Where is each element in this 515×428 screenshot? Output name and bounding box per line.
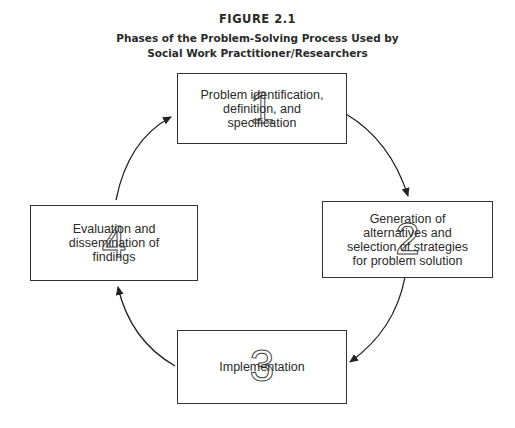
phase-text-2: Generation of alternatives and selection… [347, 212, 468, 268]
phase-1-line-3: specification [201, 116, 324, 130]
phase-1-line-2: definition, and [201, 102, 324, 116]
phase-text-3: Implementation [219, 360, 304, 374]
arrow-phase4-to-phase1 [116, 117, 171, 200]
phase-box-1: 1 Problem identification, definition, an… [177, 73, 347, 144]
phase-4-line-2: dissemination of [69, 236, 159, 250]
phase-box-2: 2 Generation of alternatives and selecti… [322, 201, 493, 278]
phase-2-line-1: Generation of [347, 212, 468, 226]
phase-2-line-4: for problem solution [347, 254, 468, 268]
phase-2-line-2: alternatives and [347, 226, 468, 240]
phase-4-line-1: Evaluation and [69, 222, 159, 236]
phase-text-4: Evaluation and dissemination of findings [69, 222, 159, 264]
phase-2-line-3: selection of strategies [347, 240, 468, 254]
arrow-phase2-to-phase3 [350, 277, 405, 362]
arrow-phase1-to-phase2 [346, 114, 408, 196]
phase-box-3: 3 Implementation [177, 330, 347, 404]
phase-text-1: Problem identification, definition, and … [201, 88, 324, 130]
arrow-phase3-to-phase4 [118, 287, 175, 366]
phase-3-line-1: Implementation [219, 360, 304, 374]
phase-4-line-3: findings [69, 250, 159, 264]
phase-box-4: 4 Evaluation and dissemination of findin… [30, 205, 198, 281]
phase-1-line-1: Problem identification, [201, 88, 324, 102]
